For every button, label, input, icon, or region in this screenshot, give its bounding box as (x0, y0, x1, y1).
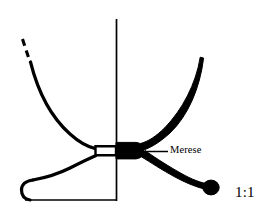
vessel-profile-figure: Merese 1:1 (0, 0, 276, 222)
right-foot-knob (203, 180, 219, 195)
scale-label: 1:1 (235, 185, 255, 200)
left-rim-dashed-break (23, 39, 31, 62)
left-bowl-wall (31, 62, 96, 149)
merese-solid-block (116, 142, 143, 159)
merese-label: Merese (170, 145, 202, 156)
right-bowl-wall-section (141, 57, 204, 151)
right-foot-section (141, 151, 207, 190)
left-stem-outline (33, 156, 96, 180)
merese-hollow-box (96, 146, 117, 155)
left-foot-tip-hook (22, 180, 34, 200)
